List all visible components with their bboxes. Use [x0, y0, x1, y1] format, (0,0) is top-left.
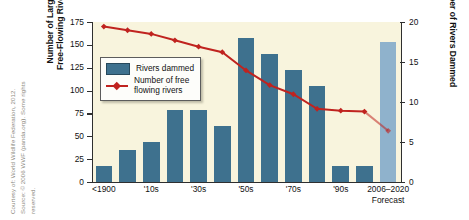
right-axis-tick-label: 0 [409, 177, 435, 187]
right-axis-tick-mark [400, 182, 405, 183]
x-axis-tick-label-text: '70s [286, 184, 301, 194]
line-marker-diamond [172, 37, 178, 43]
legend-label-line1: Number of free [134, 75, 189, 85]
left-axis-tick-label: 125 [58, 62, 84, 72]
left-axis-tick-label: 100 [58, 85, 84, 95]
x-axis-tick-label: '10s [144, 184, 159, 194]
left-axis-tick-label: 175 [58, 17, 84, 27]
left-axis-tick-label: 0 [58, 177, 84, 187]
legend: Rivers dammed Number of free flowing riv… [100, 57, 201, 101]
credit-line: Courtesy of: World Wildlife Federation, … [9, 89, 16, 214]
left-axis-title-line1: Number of Large [45, 0, 56, 63]
x-axis-tick-label: 2006–2020Forecast [367, 184, 409, 205]
bar-swatch-icon [106, 63, 130, 75]
legend-item-rivers-dammed: Rivers dammed [106, 63, 194, 75]
right-axis-tick-mark [400, 62, 405, 63]
legend-item-free-flowing-rivers: Number of free flowing rivers [106, 76, 194, 95]
x-axis-tick-label: '90s [333, 184, 348, 194]
right-axis-tick-label: 5 [409, 137, 435, 147]
x-axis-tick-label: <1900 [92, 184, 116, 194]
right-axis-tick-mark [400, 102, 405, 103]
x-axis-tick-label: '50s [238, 184, 253, 194]
credit-line: reserved. [29, 188, 36, 214]
right-axis-tick-label: 20 [409, 17, 435, 27]
left-axis-tick-label: 25 [58, 154, 84, 164]
line-series-layer [92, 22, 400, 182]
left-axis-tick-mark [87, 182, 92, 183]
x-axis-tick-label: '70s [286, 184, 301, 194]
x-axis-tick-label-text: <1900 [92, 184, 116, 194]
right-axis-tick-label: 10 [409, 97, 435, 107]
legend-label-line2: flowing rivers [134, 85, 182, 95]
right-axis-tick-mark [400, 22, 405, 23]
credit-line: Source: © 2006 WWF (panda.org). Some rig… [19, 81, 26, 214]
line-marker-diamond [125, 27, 131, 33]
left-axis-title-line2: Free-Flowing Rivers [55, 0, 66, 70]
chart-figure: Courtesy of: World Wildlife Federation, … [0, 0, 469, 220]
line-diamond-swatch-icon [106, 81, 128, 91]
credit-block: Courtesy of: World Wildlife Federation, … [0, 0, 40, 220]
line-marker-diamond [338, 108, 344, 114]
x-axis-tick-label-text: '30s [191, 184, 206, 194]
line-marker-diamond [101, 24, 107, 30]
right-axis-title: Number of Rivers Dammed [446, 0, 460, 107]
x-axis-tick-label-text: '90s [333, 184, 348, 194]
x-axis-tick-label-sub: Forecast [367, 195, 409, 205]
legend-label: Number of free flowing rivers [134, 76, 189, 95]
x-axis-tick-label-text: 2006–2020 [367, 184, 409, 194]
left-axis-tick-label: 50 [58, 131, 84, 141]
legend-label: Rivers dammed [136, 64, 194, 74]
line-marker-diamond [196, 44, 202, 50]
line-marker-diamond [148, 31, 154, 37]
x-axis-tick-label-text: '50s [238, 184, 253, 194]
x-axis-labels: <1900'10s'30s'50s'70s'90s2006–2020Foreca… [92, 184, 400, 218]
x-axis-tick-label: '30s [191, 184, 206, 194]
right-axis-tick-mark [400, 142, 405, 143]
left-axis-tick-label: 150 [58, 39, 84, 49]
left-axis-tick-label: 75 [58, 108, 84, 118]
x-axis-tick-label-text: '10s [144, 184, 159, 194]
line-segment-forecast [364, 112, 388, 131]
right-axis-tick-label: 15 [409, 57, 435, 67]
